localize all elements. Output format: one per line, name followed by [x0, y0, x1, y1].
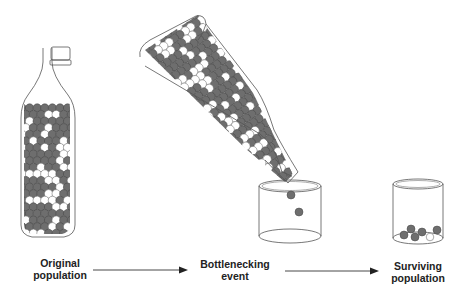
- dark-ball: [276, 128, 284, 136]
- dark-ball: [197, 164, 205, 172]
- light-ball: [205, 112, 213, 120]
- dark-ball: [280, 208, 288, 216]
- light-ball: [130, 81, 138, 89]
- light-ball: [186, 144, 194, 152]
- dark-ball: [242, 235, 250, 243]
- light-ball: [238, 61, 246, 69]
- dark-ball: [202, 161, 210, 169]
- dark-ball: [199, 116, 207, 124]
- dark-ball: [235, 202, 243, 210]
- light-ball: [275, 212, 283, 220]
- light-ball: [222, 165, 230, 173]
- dark-ball: [230, 178, 238, 186]
- dark-ball: [204, 140, 212, 148]
- dark-ball: [306, 153, 314, 161]
- light-ball: [277, 192, 285, 200]
- dark-ball: [235, 138, 243, 146]
- dark-ball: [178, 131, 186, 139]
- light-ball: [198, 108, 206, 116]
- light-ball: [131, 53, 139, 61]
- dark-ball: [215, 161, 223, 169]
- light-ball: [236, 174, 244, 182]
- light-ball: [244, 215, 252, 223]
- dark-ball: [152, 94, 160, 102]
- dark-ball: [250, 155, 258, 163]
- light-ball: [303, 201, 311, 209]
- light-ball: [134, 69, 142, 77]
- dark-ball: [157, 90, 165, 98]
- light-ball: [148, 106, 156, 114]
- light-ball: [238, 182, 246, 190]
- light-ball: [225, 182, 233, 190]
- dark-ball: [180, 111, 188, 119]
- dark-ball: [316, 174, 324, 182]
- dark-ball: [241, 198, 249, 206]
- dark-ball: [309, 197, 317, 205]
- dark-ball: [258, 223, 266, 231]
- dark-ball: [245, 187, 253, 195]
- light-ball: [226, 218, 234, 226]
- dark-ball: [248, 203, 256, 211]
- arrow-original-to-bottleneck: [93, 267, 188, 274]
- dark-ball: [191, 104, 199, 112]
- light-ball: [236, 146, 244, 154]
- dark-ball: [276, 220, 284, 228]
- dark-ball: [314, 165, 322, 173]
- light-ball: [304, 173, 312, 181]
- light-ball: [215, 133, 223, 141]
- label-surviving-population: Surviving population: [383, 260, 453, 284]
- light-ball: [165, 131, 173, 139]
- dark-ball: [196, 7, 204, 15]
- light-ball: [300, 185, 308, 193]
- dark-ball: [200, 181, 208, 189]
- light-ball: [239, 218, 247, 226]
- light-ball: [302, 165, 310, 173]
- light-ball: [271, 196, 279, 204]
- dark-ball: [173, 107, 181, 115]
- dark-ball: [283, 132, 291, 140]
- dark-ball: [44, 229, 52, 237]
- dark-ball: [280, 116, 288, 124]
- light-ball: [291, 201, 299, 209]
- dark-ball: [166, 103, 174, 111]
- light-ball: [267, 208, 275, 216]
- light-ball: [234, 166, 242, 174]
- light-ball: [183, 127, 191, 135]
- light-ball: [155, 110, 163, 118]
- light-ball: [141, 73, 149, 81]
- dark-ball: [122, 68, 130, 76]
- light-ball: [266, 200, 274, 208]
- light-ball: [293, 152, 301, 160]
- dark-ball: [174, 115, 182, 123]
- dark-ball: [253, 78, 261, 86]
- dark-ball: [228, 133, 236, 141]
- dark-ball: [325, 186, 333, 194]
- dark-ball: [271, 103, 279, 111]
- light-ball: [213, 181, 221, 189]
- dark-ball: [232, 186, 240, 194]
- light-ball: [176, 123, 184, 131]
- dark-ball: [203, 132, 211, 140]
- dark-ball: [214, 189, 222, 197]
- light-ball: [235, 230, 243, 238]
- dark-ball: [228, 198, 236, 206]
- light-ball: [197, 136, 205, 144]
- light-ball: [258, 159, 266, 167]
- dark-ball: [233, 222, 241, 230]
- light-ball: [232, 214, 240, 222]
- dark-ball: [245, 66, 253, 74]
- dark-ball: [249, 239, 257, 247]
- dark-ball: [187, 116, 195, 124]
- dark-ball: [120, 60, 128, 68]
- dark-ball: [246, 195, 254, 203]
- light-ball: [240, 162, 248, 170]
- dark-ball: [243, 178, 251, 186]
- dark-ball: [201, 124, 209, 132]
- light-ball: [250, 211, 258, 219]
- light-ball: [162, 114, 170, 122]
- dark-ball: [271, 224, 279, 232]
- dark-ball: [160, 106, 168, 114]
- dark-ball: [230, 206, 238, 214]
- dark-ball: [239, 190, 247, 198]
- dark-ball: [216, 197, 224, 205]
